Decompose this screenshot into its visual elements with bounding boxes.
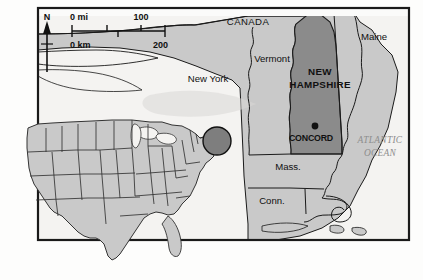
label-atlantic-line2: OCEAN bbox=[364, 148, 397, 158]
label-vermont: Vermont bbox=[254, 53, 290, 64]
scale-km-zero-label: 0 km bbox=[70, 40, 91, 50]
label-maine: Maine bbox=[361, 31, 387, 42]
scale-miles-zero-label: 0 mi bbox=[70, 12, 88, 22]
locator-map-svg: CANADA New York Vermont Maine NEW HAMPSH… bbox=[0, 0, 423, 280]
label-canada: CANADA bbox=[227, 16, 270, 27]
label-connecticut: Conn. bbox=[259, 195, 285, 206]
scale-miles-max-label: 100 bbox=[133, 12, 148, 22]
label-new-york: New York bbox=[188, 73, 229, 84]
compass-north-label: N bbox=[44, 12, 51, 22]
label-massachusetts: Mass. bbox=[275, 161, 301, 172]
canada-area bbox=[38, 8, 409, 16]
scale-km-max-label: 200 bbox=[153, 40, 168, 50]
island-marthas-vineyard bbox=[330, 225, 344, 233]
capital-dot-icon bbox=[312, 123, 319, 130]
label-atlantic-line1: ATLANTIC bbox=[357, 135, 403, 145]
new-england-region-marker bbox=[203, 127, 231, 155]
label-new-hampshire-line1: NEW bbox=[308, 66, 332, 77]
label-concord: CONCORD bbox=[289, 133, 333, 143]
label-new-hampshire-line2: HAMPSHIRE bbox=[289, 79, 351, 90]
map-figure: CANADA New York Vermont Maine NEW HAMPSH… bbox=[0, 0, 423, 280]
great-lakes-michigan bbox=[131, 124, 141, 148]
